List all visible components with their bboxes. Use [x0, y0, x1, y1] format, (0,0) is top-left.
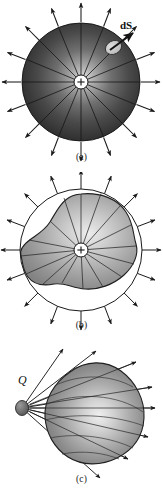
panel-a-charged-sphere: dS — [0, 0, 163, 172]
point-charge-c — [16, 401, 29, 416]
caption-a: (a) — [0, 152, 163, 162]
caption-c: (c) — [0, 474, 163, 484]
panel-b-graphic — [0, 172, 163, 340]
panel-a-graphic: dS — [0, 0, 163, 172]
caption-b: (b) — [0, 320, 163, 330]
point-charge-label-c: Q — [18, 373, 27, 387]
surface-element-label-a: dS — [120, 19, 132, 31]
figure-root: dS — [0, 0, 163, 498]
panel-b-irregular-surface — [0, 172, 163, 340]
